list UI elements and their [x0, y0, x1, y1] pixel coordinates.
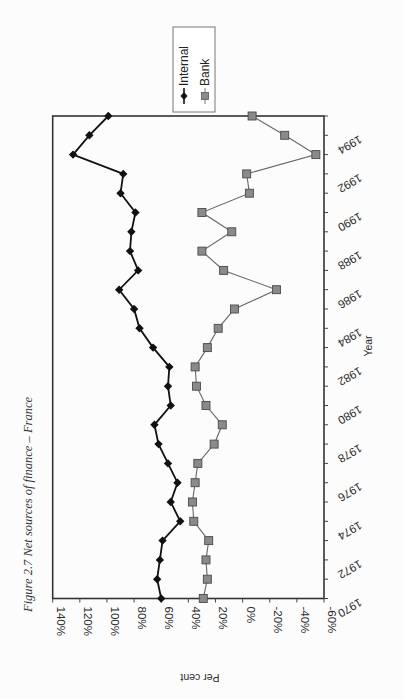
square-marker: [210, 440, 218, 448]
year-tick-label: 1980: [336, 403, 364, 426]
year-tick-label: 1978: [336, 442, 364, 465]
square-marker: [199, 595, 207, 603]
year-tick-label: 1970: [336, 596, 364, 619]
square-marker: [203, 344, 211, 352]
percent-axis-ticks: 140%120%100%80%60%40%20%0%-20%-40%-60%: [53, 599, 338, 636]
square-marker: [202, 402, 210, 410]
square-marker: [191, 363, 199, 371]
square-marker: [203, 575, 211, 583]
year-tick-label: 1984: [335, 326, 364, 349]
diamond-marker: [173, 479, 181, 487]
diamond-marker: [154, 440, 162, 448]
data-series: [69, 112, 320, 603]
diamond-marker: [157, 594, 165, 602]
year-tick-label: 1994: [335, 133, 364, 156]
scanned-page: Figure 2.7 Net sources of finance – Fran…: [0, 0, 404, 699]
year-tick-label: 1972: [336, 558, 364, 581]
plot-frame: [53, 116, 324, 599]
percent-tick-label: 140%: [55, 607, 67, 636]
square-marker: [190, 517, 198, 525]
percent-tick-label: 120%: [82, 607, 94, 636]
square-marker: [230, 305, 238, 313]
percent-tick-label: 80%: [136, 607, 148, 630]
y-axis-title: Per cent: [180, 672, 219, 684]
percent-tick-label: 20%: [217, 607, 229, 630]
square-marker: [243, 170, 251, 178]
percent-tick-label: -20%: [272, 607, 284, 634]
percent-tick-label: 0%: [245, 607, 257, 624]
year-tick-label: 1982: [336, 365, 364, 388]
percent-tick-label: 60%: [163, 607, 175, 630]
x-axis-title: Year: [362, 335, 374, 357]
series-bank: [188, 112, 319, 603]
percent-tick-label: 40%: [190, 607, 202, 630]
percent-tick-label: -60%: [326, 607, 338, 634]
year-tick-label: 1992: [336, 172, 364, 195]
series-line: [192, 116, 315, 599]
diamond-marker: [127, 228, 135, 236]
square-marker: [198, 209, 206, 217]
square-marker: [202, 556, 210, 564]
square-marker: [191, 479, 199, 487]
year-tick-label: 1976: [336, 481, 364, 504]
year-tick-label: 1988: [336, 249, 364, 272]
series-line: [73, 116, 180, 599]
percent-tick-label: 100%: [109, 607, 121, 636]
year-tick-label: 1974: [335, 519, 364, 542]
legend-label-internal: Internal: [177, 46, 191, 86]
diamond-marker: [119, 170, 127, 178]
square-marker: [192, 382, 200, 390]
square-marker: [188, 498, 196, 506]
square-marker: [194, 459, 202, 467]
year-tick-label: 1990: [336, 210, 364, 233]
diamond-marker: [164, 382, 172, 390]
series-internal: [69, 112, 185, 603]
year-tick-label: 1986: [336, 288, 364, 311]
diamond-marker: [126, 247, 134, 255]
figure-caption: Figure 2.7 Net sources of finance – Fran…: [21, 397, 35, 613]
diamond-marker: [167, 498, 175, 506]
square-marker: [218, 421, 226, 429]
percent-tick-label: -40%: [299, 607, 311, 634]
diamond-marker: [156, 556, 164, 564]
square-marker: [245, 189, 253, 197]
square-marker-icon: [202, 93, 209, 100]
square-marker: [312, 151, 320, 159]
square-marker: [228, 228, 236, 236]
diamond-marker: [153, 575, 161, 583]
legend: Internal Bank: [173, 27, 215, 112]
square-marker: [220, 266, 228, 274]
year-axis-ticks: 1970197219741976197819801982198419861988…: [324, 116, 364, 620]
legend-label-bank: Bank: [198, 58, 212, 86]
net-sources-finance-chart: Figure 2.7 Net sources of finance – Fran…: [0, 0, 404, 699]
square-marker: [248, 112, 256, 120]
square-marker: [198, 247, 206, 255]
square-marker: [273, 286, 281, 294]
diamond-marker: [164, 459, 172, 467]
square-marker: [281, 131, 289, 139]
square-marker: [214, 324, 222, 332]
square-marker: [205, 537, 213, 545]
